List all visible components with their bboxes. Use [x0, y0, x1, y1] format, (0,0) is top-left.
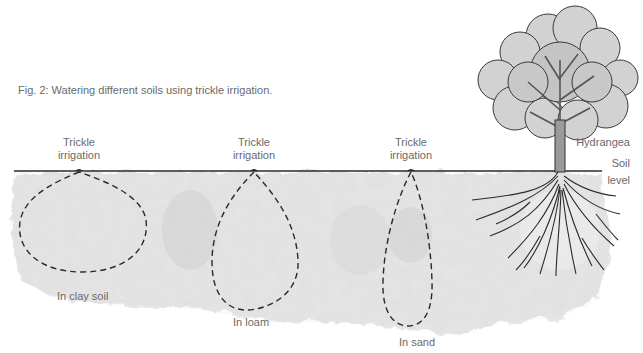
emitter-label-line1: Trickle — [381, 136, 441, 149]
emitter-label-line1: Trickle — [224, 136, 284, 149]
soil-level-label-line2: level — [560, 174, 630, 187]
figure-caption: Fig. 2: Watering different soils using t… — [18, 84, 272, 96]
diagram-canvas: Fig. 2: Watering different soils using t… — [0, 0, 643, 353]
emitter-label-line2: irrigation — [49, 149, 109, 162]
soil-label-clay: In clay soil — [57, 290, 108, 303]
emitter-label-loam: Trickle irrigation — [224, 136, 284, 162]
soil-level-label-line1: Soil — [560, 157, 630, 170]
emitter-sand-icon — [407, 169, 415, 171]
emitter-clay-icon — [75, 169, 83, 171]
emitter-loam-icon — [250, 169, 258, 171]
emitter-label-line1: Trickle — [49, 136, 109, 149]
emitter-label-line2: irrigation — [224, 149, 284, 162]
soil-label-sand: In sand — [399, 336, 435, 349]
emitter-label-line2: irrigation — [381, 149, 441, 162]
tree-label: Hydrangea — [560, 136, 630, 149]
emitter-label-sand: Trickle irrigation — [381, 136, 441, 162]
soil-label-loam: In loam — [233, 316, 269, 329]
emitter-label-clay: Trickle irrigation — [49, 136, 109, 162]
